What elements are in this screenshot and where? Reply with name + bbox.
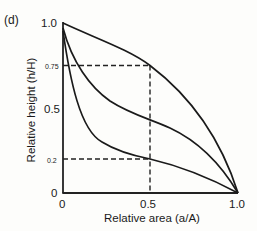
y-tick-02: 0.2 [47, 157, 57, 164]
y-tick-075: 0.75 [45, 63, 59, 70]
chart: (d) 1.0 0.75 0.5 0.2 0 0 0.5 1.0 Relativ… [0, 0, 257, 231]
reference-lines [63, 66, 150, 194]
x-axis-label: Relative area (a/A) [104, 212, 200, 224]
y-tick-05: 0.5 [44, 103, 60, 115]
x-tick-0: 0 [59, 198, 65, 210]
y-tick-0: 0 [51, 187, 57, 199]
panel-label: (d) [4, 13, 19, 27]
y-axis-label: Relative height (h/H) [25, 57, 37, 162]
lower-curve [63, 31, 238, 193]
y-tick-1: 1.0 [41, 17, 57, 29]
x-tick-05: 0.5 [140, 198, 156, 210]
x-tick-1: 1.0 [229, 198, 245, 210]
